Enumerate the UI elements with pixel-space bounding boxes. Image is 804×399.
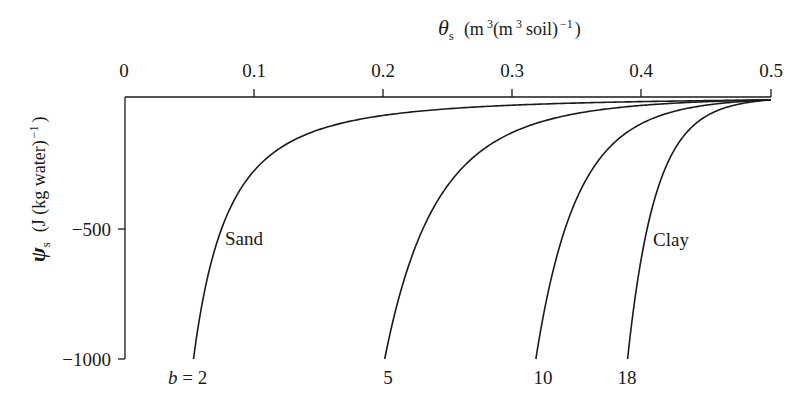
x-units-sup: −1 xyxy=(560,17,573,31)
x-tick-label: 0.2 xyxy=(371,60,395,81)
b18-label: 18 xyxy=(618,367,637,388)
b10-label: 10 xyxy=(534,367,553,388)
sand-label: Sand xyxy=(225,228,264,249)
x-axis-title: θs(m3(m3soil)−1) xyxy=(438,15,581,43)
x-units-part: ) xyxy=(575,19,581,40)
y-units-part: (J (kg water) xyxy=(29,140,50,232)
b2-label: b = 2 xyxy=(168,367,207,388)
axes xyxy=(118,89,771,359)
x-tick-label: 0.4 xyxy=(629,60,653,81)
curve-b-5 xyxy=(385,100,771,359)
x-units-part: (m xyxy=(464,19,484,40)
b-symbol: b xyxy=(168,367,178,388)
b-value: = 2 xyxy=(178,367,208,388)
x-tick-label: 0 xyxy=(119,60,129,81)
y-axis-title: ψs(J (kg water)−1) xyxy=(25,116,53,262)
soil-water-retention-chart: θs(m3(m3soil)−1) 0 0.1 0.2 0.3 0.4 0.5 −… xyxy=(0,0,804,399)
x-tick-label: 0.5 xyxy=(759,60,783,81)
y-units-sup: −1 xyxy=(27,125,41,138)
curve-b-18 xyxy=(628,100,771,359)
theta-subscript: s xyxy=(449,28,454,43)
y-tick-label: −500 xyxy=(72,219,111,240)
clay-label: Clay xyxy=(653,229,689,250)
x-units-part: (m xyxy=(493,19,513,40)
x-units-part: soil) xyxy=(526,19,558,40)
x-tick-label: 0.3 xyxy=(500,60,524,81)
theta-symbol: θ xyxy=(438,15,449,40)
x-units-sup: 3 xyxy=(516,17,522,31)
y-tick-label: −1000 xyxy=(62,349,111,370)
y-units-part: ) xyxy=(29,116,50,122)
x-tick-label: 0.1 xyxy=(242,60,266,81)
x-tick-labels: 0 0.1 0.2 0.3 0.4 0.5 xyxy=(119,60,783,81)
psi-symbol: ψ xyxy=(25,247,50,262)
psi-subscript: s xyxy=(38,242,53,247)
b5-label: 5 xyxy=(383,367,393,388)
